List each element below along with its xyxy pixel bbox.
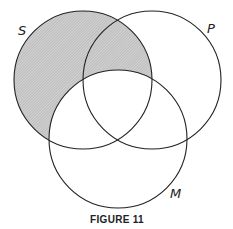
- label-p: P: [207, 21, 215, 36]
- shaded-region-s-minus-m: [0, 0, 233, 229]
- figure-caption: FIGURE 11: [90, 214, 144, 225]
- label-s: S: [18, 23, 26, 38]
- label-m: M: [170, 186, 181, 201]
- venn-diagram: S P M FIGURE 11: [0, 0, 233, 229]
